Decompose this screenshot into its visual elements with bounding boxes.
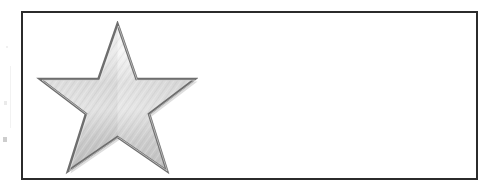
figure-box	[21, 11, 478, 180]
scan-artifact-mark	[4, 101, 7, 105]
page-canvas	[0, 0, 497, 189]
scan-artifact-mark	[3, 137, 7, 142]
scan-artifact-line	[10, 66, 11, 128]
star-icon	[32, 21, 198, 179]
scan-artifact-mark	[6, 46, 8, 48]
figure-empty-area	[203, 13, 476, 178]
scan-margin-artifacts	[0, 0, 18, 189]
